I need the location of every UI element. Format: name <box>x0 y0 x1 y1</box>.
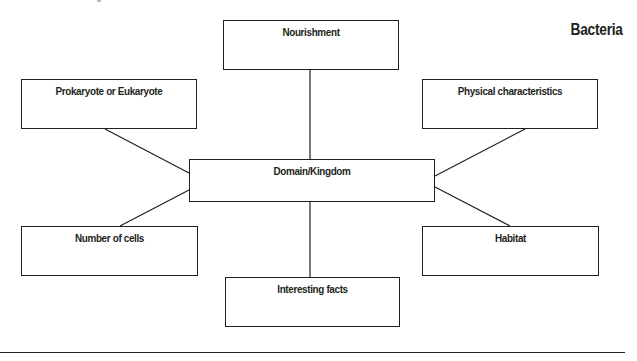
connector-lower-left <box>120 190 189 226</box>
node-label: Domain/Kingdom <box>207 165 417 177</box>
node-nourishment: Nourishment <box>223 20 399 70</box>
node-prokaryote-or-eukaryote: Prokaryote or Eukaryote <box>21 79 197 129</box>
node-number-of-cells: Number of cells <box>21 226 198 276</box>
node-interesting-facts: Interesting facts <box>225 277 400 327</box>
connector-upper-right <box>435 129 525 176</box>
bottom-divider <box>0 352 625 353</box>
node-domain-kingdom: Domain/Kingdom <box>189 159 435 202</box>
node-label: Number of cells <box>34 232 185 244</box>
connector-upper-left <box>105 129 189 173</box>
node-habitat: Habitat <box>422 226 599 276</box>
node-physical-characteristics: Physical characteristics <box>422 79 598 129</box>
node-label: Nourishment <box>236 26 386 38</box>
node-label: Physical characteristics <box>435 85 585 97</box>
node-label: Prokaryote or Eukaryote <box>34 85 184 97</box>
node-label: Habitat <box>435 232 586 244</box>
node-label: Interesting facts <box>238 283 387 295</box>
connector-lower-right <box>435 187 510 226</box>
diagram-title: Bacteria <box>571 21 623 39</box>
